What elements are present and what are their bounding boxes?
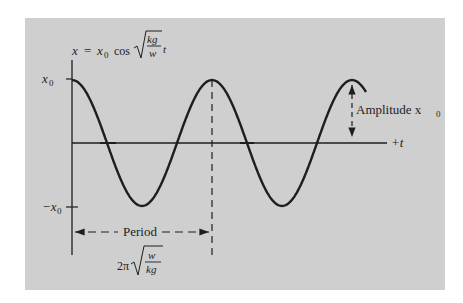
svg-text:kg: kg: [146, 263, 157, 275]
svg-text:kg: kg: [147, 33, 158, 45]
y-label-neg-x0: −x 0: [42, 199, 62, 216]
svg-text:t: t: [163, 43, 167, 55]
svg-text:w: w: [149, 47, 157, 59]
oscillation-diagram: x = x 0 cos kg w t x 0 −x 0 +t Amplitude…: [0, 0, 463, 303]
period-formula: 2π w kg: [117, 246, 163, 275]
svg-text:0: 0: [436, 109, 441, 119]
amplitude-label: Amplitude x 0: [356, 102, 441, 119]
svg-text:0: 0: [104, 50, 109, 60]
y-label-x0: x 0: [41, 71, 54, 88]
svg-text:cos: cos: [114, 44, 130, 58]
equation-label: x = x 0 cos kg w t: [71, 31, 167, 60]
svg-text:0: 0: [49, 78, 54, 88]
t-axis-label: +t: [391, 135, 404, 150]
svg-text:Amplitude x: Amplitude x: [356, 102, 422, 117]
period-label: Period: [123, 224, 157, 239]
svg-text:=: =: [84, 43, 91, 58]
svg-text:−x: −x: [42, 199, 57, 214]
svg-text:w: w: [148, 249, 156, 261]
svg-text:x: x: [71, 43, 78, 58]
svg-text:2π: 2π: [117, 259, 129, 273]
svg-text:0: 0: [57, 206, 62, 216]
svg-text:x: x: [41, 71, 48, 86]
svg-text:x: x: [96, 43, 103, 58]
